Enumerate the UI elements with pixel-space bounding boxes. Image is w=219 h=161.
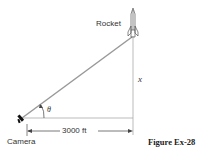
rocket-icon [128,8,138,37]
rocket-label: Rocket [96,19,121,28]
distance-label: 3000 ft [62,126,86,135]
height-variable-label: x [138,74,142,84]
camera-icon [17,114,24,123]
sight-line [22,37,132,118]
camera-label: Camera [7,137,35,146]
angle-variable-label: θ [47,105,51,114]
arrow-left-icon [27,129,32,133]
arrow-right-icon [128,129,133,133]
figure-caption: Figure Ex-28 [148,137,195,147]
